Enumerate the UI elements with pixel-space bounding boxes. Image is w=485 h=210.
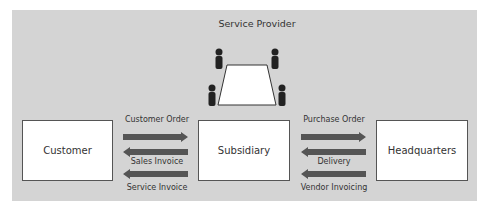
arrow-right-icon	[123, 132, 189, 142]
subsidiary-box: Subsidiary	[198, 120, 290, 181]
service-provider-title: Service Provider	[192, 18, 322, 29]
subsidiary-label: Subsidiary	[218, 145, 270, 156]
delivery-label: Delivery	[299, 157, 369, 166]
customer-label: Customer	[43, 145, 92, 156]
meeting-table-icon	[208, 38, 288, 118]
diagram-canvas: Service Provider Customer Subsidiary Hea…	[12, 10, 477, 201]
vendor-invoicing-label: Vendor Invoicing	[299, 183, 369, 192]
headquarters-label: Headquarters	[388, 145, 456, 156]
arrow-left-icon	[301, 169, 367, 179]
arrow-right-icon	[301, 132, 367, 142]
arrow-left-icon	[123, 169, 189, 179]
customer-order-label: Customer Order	[122, 115, 192, 124]
arrow-left-icon	[123, 147, 189, 157]
sales-invoice-label: Sales Invoice	[122, 157, 192, 166]
customer-box: Customer	[22, 120, 113, 181]
arrow-left-icon	[301, 147, 367, 157]
service-invoice-label: Service Invoice	[122, 183, 192, 192]
headquarters-box: Headquarters	[376, 120, 468, 181]
purchase-order-label: Purchase Order	[299, 115, 369, 124]
